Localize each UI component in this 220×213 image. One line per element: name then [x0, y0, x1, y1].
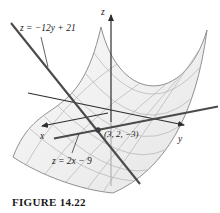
- z-axis-label: z: [100, 7, 105, 17]
- tangent-line-y-label: z = −12y + 21: [19, 23, 76, 33]
- saddle-surface-diagram: z = −12y + 21 z = 2x − 9 (3, 2, −3) z x …: [0, 0, 220, 213]
- tangent-point-dot: [95, 127, 100, 132]
- tangent-point-label: (3, 2, −3): [104, 129, 139, 139]
- y-axis-label: y: [177, 134, 183, 144]
- figure-14-22: z = −12y + 21 z = 2x − 9 (3, 2, −3) z x …: [0, 0, 220, 213]
- figure-caption: FIGURE 14.22: [12, 196, 86, 208]
- tangent-line-x-label: z = 2x − 9: [51, 156, 92, 166]
- x-axis-label: x: [39, 131, 45, 141]
